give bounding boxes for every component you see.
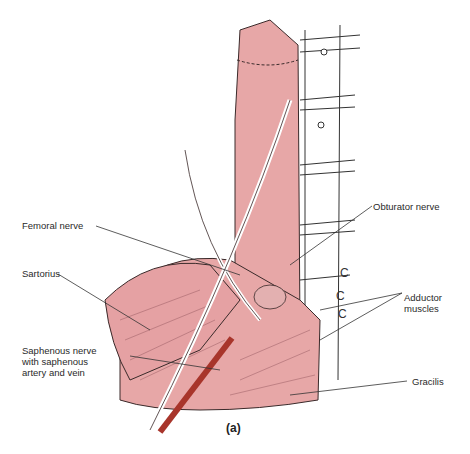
label-adductor-muscles: Adductor muscles (404, 292, 442, 314)
label-sartorius: Sartorius (22, 268, 60, 279)
svg-text:C: C (338, 307, 347, 321)
label-obturator-nerve: Obturator nerve (373, 201, 440, 212)
svg-text:C: C (336, 289, 345, 303)
svg-text:C: C (340, 266, 349, 280)
obturator-foramen (254, 285, 286, 309)
figure-caption: (a) (226, 421, 241, 435)
label-gracilis: Gracilis (412, 376, 444, 387)
label-saphenous-nerve: Saphenous nerve with saphenous artery an… (22, 345, 96, 378)
label-femoral-nerve: Femoral nerve (22, 220, 83, 231)
anatomy-figure: C C C (0, 0, 470, 454)
